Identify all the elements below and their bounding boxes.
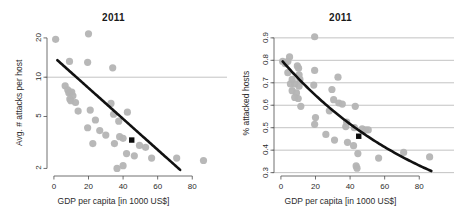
data-point — [353, 165, 360, 172]
data-point — [119, 135, 126, 142]
trend-line — [57, 60, 180, 170]
data-point — [310, 81, 317, 88]
x-tick-label: 60 — [373, 182, 397, 191]
data-point — [52, 36, 59, 43]
y-tick-label: 10 — [34, 63, 43, 91]
x-tick-label: 20 — [77, 182, 101, 191]
highlight-marker — [129, 137, 134, 142]
data-point — [84, 59, 91, 66]
x-tick-label: 80 — [407, 182, 431, 191]
data-point — [142, 144, 149, 151]
data-point — [322, 131, 329, 138]
x-tick-label: 0 — [269, 182, 293, 191]
data-point — [312, 114, 319, 121]
data-point — [331, 136, 338, 143]
data-point — [113, 165, 120, 172]
data-point — [426, 153, 433, 160]
data-point — [328, 86, 335, 93]
data-point — [111, 140, 118, 147]
data-point — [75, 107, 82, 114]
data-point — [84, 124, 91, 131]
x-tick-label: 40 — [111, 182, 135, 191]
data-point — [66, 58, 73, 65]
data-point — [350, 142, 357, 149]
x-tick-label: 80 — [180, 182, 204, 191]
y-tick-label: 5 — [34, 102, 43, 130]
data-point — [354, 150, 361, 157]
data-point — [365, 126, 372, 133]
data-point — [85, 30, 92, 37]
y-tick-label: 2 — [34, 154, 43, 182]
data-point — [123, 150, 130, 157]
data-point — [89, 140, 96, 147]
data-point — [87, 106, 94, 113]
data-point — [352, 103, 359, 110]
highlight-marker — [356, 134, 361, 139]
data-point — [339, 101, 346, 108]
panel-attacked-hosts: 2011 % attacked hosts GDP per capita [in… — [227, 0, 454, 218]
data-point — [295, 65, 302, 72]
data-point — [295, 95, 302, 102]
figure-container: 2011 Avg. # attacks per host GDP per cap… — [0, 0, 454, 218]
x-tick-label: 60 — [146, 182, 170, 191]
data-point — [109, 64, 116, 71]
data-point — [344, 139, 351, 146]
data-point — [124, 109, 131, 116]
data-point — [311, 33, 318, 40]
data-point — [102, 132, 109, 139]
data-point — [297, 103, 304, 110]
data-point — [375, 154, 382, 161]
data-point — [334, 74, 341, 81]
data-point — [311, 67, 318, 74]
data-point — [92, 116, 99, 123]
data-point — [173, 154, 180, 161]
data-point — [311, 121, 318, 128]
data-point — [96, 127, 103, 134]
y-tick-label: 20 — [34, 23, 43, 51]
data-point — [72, 99, 79, 106]
x-tick-label: 40 — [338, 182, 362, 191]
x-tick-label: 0 — [42, 182, 66, 191]
data-point — [148, 154, 155, 161]
x-tick-label: 20 — [304, 182, 328, 191]
y-tick-label: 0.9 — [261, 23, 270, 51]
data-point — [200, 157, 207, 164]
data-point — [131, 152, 138, 159]
panel-attacks-per-host: 2011 Avg. # attacks per host GDP per cap… — [0, 0, 227, 218]
